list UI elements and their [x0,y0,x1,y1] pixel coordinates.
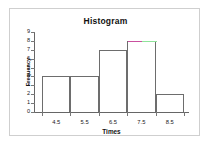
y-tick-label: 0 [27,108,30,115]
x-axis-line [34,112,189,113]
x-tick-mark [184,112,185,116]
y-tick-label: 1 [27,99,30,106]
plot-area: Frequency Times 0123456789 4.55.56.57.58… [34,32,189,112]
histogram-bar [156,94,184,112]
chart-frame: Histogram Frequency Times 0123456789 4.5… [9,8,200,136]
x-tick-mark [127,112,128,116]
y-tick-mark [31,68,35,69]
y-tick-mark [31,59,35,60]
x-tick-mark [70,112,71,116]
y-tick-label: 9 [27,28,30,35]
x-tick-mark [99,112,100,116]
bar-top-accent-right [142,41,157,43]
y-tick-mark [31,50,35,51]
x-tick-label: 6.5 [101,119,125,125]
x-tick-label: 4.5 [44,119,68,125]
y-tick-mark [31,94,35,95]
x-tick-mark [42,112,43,116]
y-tick-mark [31,76,35,77]
y-tick-label: 3 [27,81,30,88]
y-tick-label: 8 [27,37,30,44]
y-tick-mark [31,103,35,104]
y-tick-mark [31,32,35,33]
x-tick-mark [156,112,157,116]
y-tick-label: 5 [27,64,30,71]
bar-top-accent-left [128,41,142,43]
histogram-bar [127,41,155,112]
y-tick-mark [31,112,35,113]
y-tick-mark [31,41,35,42]
x-tick-label: 5.5 [73,119,97,125]
y-tick-label: 2 [27,90,30,97]
y-tick-label: 7 [27,46,30,53]
histogram-bar [70,76,98,112]
y-tick-mark [31,85,35,86]
chart-title: Histogram [10,16,201,26]
x-tick-label: 7.5 [129,119,153,125]
x-axis-title: Times [34,128,189,135]
y-tick-label: 6 [27,55,30,62]
y-tick-label: 4 [27,72,30,79]
x-tick-label: 8.5 [158,119,182,125]
y-axis-line [34,32,35,112]
histogram-bar [99,50,127,112]
histogram-bar [42,76,70,112]
